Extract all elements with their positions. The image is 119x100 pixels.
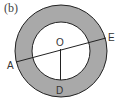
- panel-label: (b): [4, 1, 18, 15]
- label-o: O: [56, 37, 64, 48]
- label-a: A: [7, 60, 14, 71]
- label-e: E: [108, 32, 115, 43]
- label-d: D: [56, 85, 63, 96]
- annulus-diagram: (b) O A E D: [0, 0, 119, 100]
